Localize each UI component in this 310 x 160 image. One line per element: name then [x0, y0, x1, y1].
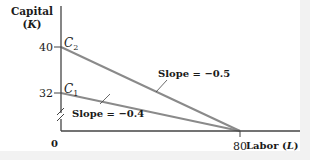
- leader-c2: [156, 80, 167, 92]
- label-c1: C1: [64, 83, 78, 98]
- label-c2: C2: [64, 37, 78, 52]
- tick-label-0: 0: [51, 139, 58, 149]
- y-axis-label: Capital (K): [4, 5, 60, 31]
- slope-label-c2: Slope = −0.5: [158, 69, 230, 79]
- tick-label-32: 32: [39, 88, 53, 99]
- tick-label-40: 40: [39, 42, 53, 53]
- x-axis-label: Labor (L): [246, 141, 298, 151]
- tick-label-80: 80: [233, 141, 247, 152]
- slope-label-c1: Slope = −0.4: [72, 109, 144, 119]
